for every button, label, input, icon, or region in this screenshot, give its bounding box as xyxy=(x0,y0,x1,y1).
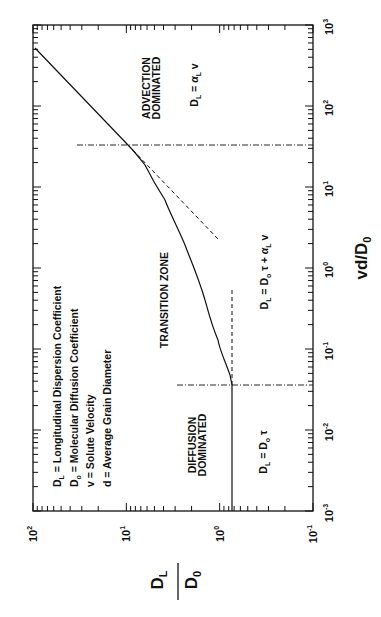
legend-item-d: d = Average Grain Diameter xyxy=(101,350,113,487)
y-tick-label: 101 xyxy=(119,526,132,542)
y-axis-title-denominator: D0 xyxy=(182,571,203,589)
y-axis-title-numerator: DL xyxy=(148,570,169,589)
diffusion-region-label: DIFFUSION DOMINATED xyxy=(186,413,208,476)
x-axis-title: vd/D0 xyxy=(352,237,373,280)
diffusion-label-line2: DOMINATED xyxy=(196,413,208,476)
diffusion-equation: DL = Do τ xyxy=(257,430,271,474)
x-tick-label: 100 xyxy=(322,262,335,278)
y-tick-label: 102 xyxy=(26,526,39,542)
x-tick-label: 101 xyxy=(322,181,335,197)
advection-label-line2: DOMINATED xyxy=(150,56,162,119)
legend-item-d0: Do = Molecular Diffusion Coefficient xyxy=(68,308,82,487)
x-tick-label: 103 xyxy=(322,19,335,35)
legend-item-v: v = Solute Velocity xyxy=(84,394,96,487)
y-tick-label: 100 xyxy=(213,526,226,542)
figure: ADVECTION DOMINATED TRANSITION ZONE DIFF… xyxy=(0,0,381,617)
transition-equation: DL = Do τ + αL v xyxy=(258,234,272,309)
x-tick-label: 10-3 xyxy=(322,504,335,523)
x-tick-label: 102 xyxy=(322,100,335,116)
transition-zone-label: TRANSITION ZONE xyxy=(158,252,170,348)
advection-region-label: ADVECTION DOMINATED xyxy=(140,56,162,119)
legend-item-dl: DL = Longitudinal Dispersion Coefficient xyxy=(51,285,65,487)
advection-equation: DL = αL v xyxy=(188,63,202,107)
advection-asymptote xyxy=(128,145,218,239)
y-axis-tick-labels: 10-1100101102 xyxy=(26,525,319,544)
y-tick-label: 10-1 xyxy=(306,525,319,544)
y-axis-title: DL D0 xyxy=(148,563,203,600)
x-tick-label: 10-1 xyxy=(322,342,335,361)
legend: DL = Longitudinal Dispersion Coefficient… xyxy=(51,285,113,487)
x-axis-tick-labels: 10-310-210-1100101102103 xyxy=(322,19,335,522)
x-tick-label: 10-2 xyxy=(322,423,335,442)
